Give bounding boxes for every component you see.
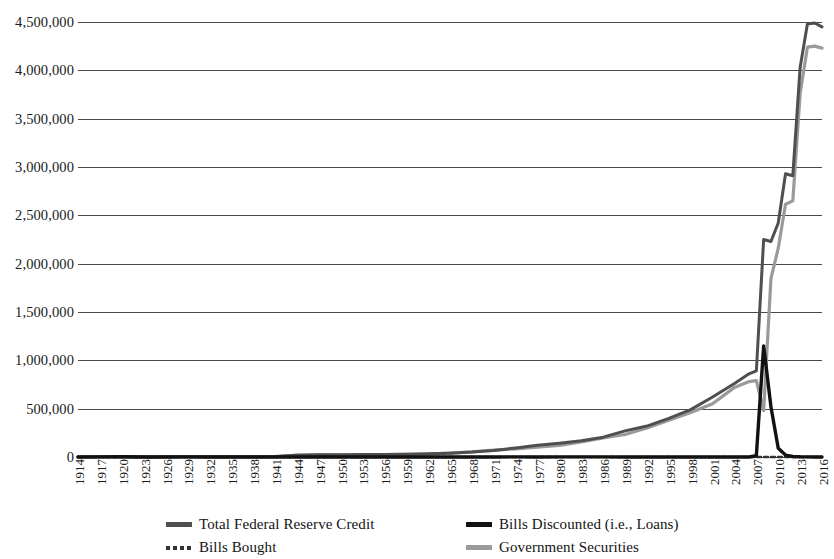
federal-reserve-credit-line-chart: 0500,0001,000,0001,500,0002,000,0002,500… bbox=[0, 0, 834, 559]
y-axis: 0500,0001,000,0001,500,0002,000,0002,500… bbox=[0, 0, 74, 470]
y-tick-label: 4,000,000 bbox=[15, 62, 74, 79]
x-tick-label: 1917 bbox=[95, 459, 108, 485]
x-tick-label: 1914 bbox=[73, 459, 86, 485]
x-tick-label: 1980 bbox=[554, 459, 567, 485]
series-line bbox=[78, 23, 822, 457]
x-tick-label: 2016 bbox=[817, 459, 830, 485]
x-tick-label: 1941 bbox=[270, 459, 283, 485]
line-solid-black-icon bbox=[466, 522, 492, 527]
y-tick-label: 1,000,000 bbox=[15, 352, 74, 369]
y-tick-label: 3,500,000 bbox=[15, 110, 74, 127]
y-tick-label: 2,000,000 bbox=[15, 255, 74, 272]
x-tick-label: 1923 bbox=[139, 459, 152, 485]
y-tick-label: 4,500,000 bbox=[15, 14, 74, 31]
x-tick-label: 1998 bbox=[686, 459, 699, 485]
x-tick-label: 2007 bbox=[751, 459, 764, 485]
series-line bbox=[78, 346, 822, 457]
x-tick-label: 1986 bbox=[598, 459, 611, 485]
chart-legend: Total Federal Reserve CreditBills Discou… bbox=[166, 513, 806, 559]
series-layer bbox=[78, 22, 822, 457]
x-tick-label: 1974 bbox=[511, 459, 524, 485]
x-tick-label: 2010 bbox=[773, 459, 786, 485]
x-tick-label: 1953 bbox=[357, 459, 370, 485]
x-tick-label: 1971 bbox=[489, 459, 502, 485]
legend-label: Bills Discounted (i.e., Loans) bbox=[499, 516, 679, 533]
x-tick-label: 1995 bbox=[664, 459, 677, 485]
x-tick-label: 1992 bbox=[642, 459, 655, 485]
legend-item[interactable]: Bills Discounted (i.e., Loans) bbox=[466, 516, 806, 533]
x-tick-label: 1983 bbox=[576, 459, 589, 485]
line-dotted-icon bbox=[166, 546, 192, 550]
y-tick-label: 3,000,000 bbox=[15, 159, 74, 176]
x-tick-label: 1965 bbox=[445, 459, 458, 485]
legend-label: Government Securities bbox=[499, 539, 639, 556]
x-tick-label: 1989 bbox=[620, 459, 633, 485]
x-tick-label: 1959 bbox=[401, 459, 414, 485]
x-tick-label: 1932 bbox=[204, 459, 217, 485]
x-tick-label: 1938 bbox=[248, 459, 261, 485]
x-tick-label: 1944 bbox=[292, 459, 305, 485]
x-tick-label: 2001 bbox=[708, 459, 721, 485]
line-solid-lightgray-icon bbox=[466, 545, 492, 550]
x-axis: 1914191719201923192619291932193519381941… bbox=[78, 459, 822, 511]
x-tick-label: 1935 bbox=[226, 459, 239, 485]
x-tick-label: 2013 bbox=[795, 459, 808, 485]
legend-label: Total Federal Reserve Credit bbox=[199, 516, 374, 533]
x-tick-label: 1968 bbox=[467, 459, 480, 485]
y-tick-label: 500,000 bbox=[26, 400, 74, 417]
legend-item[interactable]: Total Federal Reserve Credit bbox=[166, 516, 466, 533]
x-tick-label: 1956 bbox=[379, 459, 392, 485]
x-tick-label: 1926 bbox=[161, 459, 174, 485]
legend-label: Bills Bought bbox=[199, 539, 276, 556]
x-tick-label: 1962 bbox=[423, 459, 436, 485]
legend-item[interactable]: Bills Bought bbox=[166, 539, 466, 556]
x-tick-label: 1950 bbox=[336, 459, 349, 485]
plot-area bbox=[78, 22, 822, 457]
x-tick-label: 1920 bbox=[117, 459, 130, 485]
y-tick-label: 2,500,000 bbox=[15, 207, 74, 224]
line-solid-darkgray-icon bbox=[166, 522, 192, 527]
x-tick-label: 1929 bbox=[182, 459, 195, 485]
x-tick-label: 2004 bbox=[729, 459, 742, 485]
x-tick-label: 1947 bbox=[314, 459, 327, 485]
legend-item[interactable]: Government Securities bbox=[466, 539, 806, 556]
y-tick-label: 1,500,000 bbox=[15, 304, 74, 321]
series-line bbox=[78, 46, 822, 457]
x-tick-label: 1977 bbox=[533, 459, 546, 485]
